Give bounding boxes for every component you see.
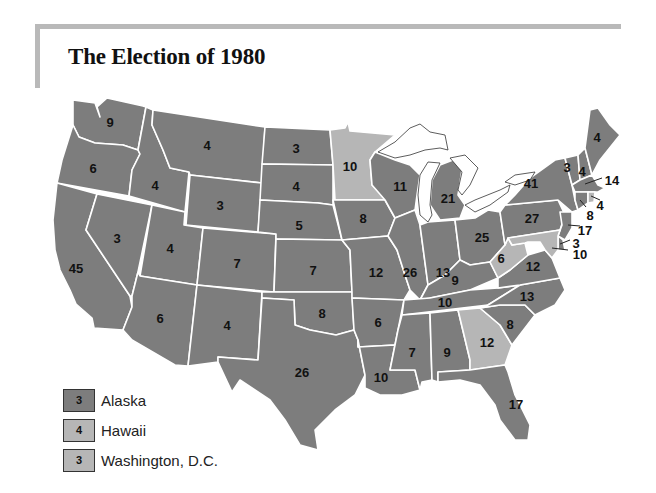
votes-label-IA: 8: [359, 211, 366, 226]
votes-label-MD: 10: [573, 247, 587, 262]
legend-swatch-dc: 3: [63, 449, 95, 472]
votes-label-UT: 4: [166, 241, 174, 256]
votes-label-TN: 10: [438, 295, 452, 310]
votes-label-OR: 6: [89, 161, 96, 176]
votes-label-FL: 17: [509, 397, 523, 412]
votes-label-CA: 45: [69, 261, 83, 276]
votes-label-MO: 12: [369, 265, 383, 280]
votes-label-RI: 4: [596, 198, 604, 213]
votes-label-KY: 9: [451, 273, 458, 288]
votes-label-SC: 8: [506, 317, 513, 332]
votes-label-NJ: 17: [578, 223, 592, 238]
votes-label-ND: 3: [292, 141, 299, 156]
votes-label-AL: 9: [443, 345, 450, 360]
votes-label-KS: 7: [309, 263, 316, 278]
votes-label-NH: 4: [578, 164, 586, 179]
votes-label-OH: 25: [475, 230, 489, 245]
votes-label-IL: 26: [403, 265, 417, 280]
legend-label-hawaii: Hawaii: [101, 422, 146, 439]
legend-swatch-alaska: 3: [63, 389, 95, 412]
votes-label-ID: 4: [151, 178, 159, 193]
votes-label-LA: 10: [374, 370, 388, 385]
votes-label-NM: 4: [223, 318, 231, 333]
votes-label-AZ: 6: [156, 311, 163, 326]
votes-label-NV: 3: [113, 231, 120, 246]
votes-label-NY: 41: [524, 176, 538, 191]
votes-label-AR: 6: [374, 315, 381, 330]
votes-label-VT: 3: [563, 160, 570, 175]
legend-label-dc: Washington, D.C.: [101, 452, 218, 469]
votes-label-MT: 4: [203, 138, 211, 153]
legend-item-dc: 3 Washington, D.C.: [63, 445, 218, 475]
votes-label-WI: 11: [393, 179, 407, 194]
votes-label-MS: 7: [408, 345, 415, 360]
votes-label-MN: 10: [343, 159, 357, 174]
legend-label-alaska: Alaska: [101, 392, 146, 409]
votes-label-WV: 6: [497, 251, 504, 266]
votes-label-IN: 13: [436, 265, 450, 280]
votes-label-PA: 27: [525, 211, 539, 226]
state-ME: [585, 108, 620, 175]
votes-label-GA: 12: [480, 335, 494, 350]
legend-item-hawaii: 4 Hawaii: [63, 415, 218, 445]
legend-item-alaska: 3 Alaska: [63, 385, 218, 415]
votes-label-OK: 8: [318, 306, 325, 321]
votes-label-MA: 14: [605, 173, 620, 188]
legend: 3 Alaska 4 Hawaii 3 Washington, D.C.: [63, 385, 218, 475]
votes-label-ME: 4: [593, 130, 601, 145]
votes-label-WA: 9: [106, 115, 113, 130]
votes-label-MI: 21: [441, 191, 455, 206]
legend-swatch-hawaii: 4: [63, 419, 95, 442]
votes-label-VA: 12: [526, 259, 540, 274]
votes-label-TX: 26: [295, 365, 309, 380]
votes-label-NE: 5: [295, 218, 302, 233]
votes-label-SD: 4: [292, 179, 300, 194]
votes-label-CO: 7: [233, 256, 240, 271]
state-WY: [186, 175, 262, 232]
votes-label-NC: 13: [520, 289, 534, 304]
votes-label-WY: 3: [216, 198, 223, 213]
votes-label-CT: 8: [586, 208, 593, 223]
